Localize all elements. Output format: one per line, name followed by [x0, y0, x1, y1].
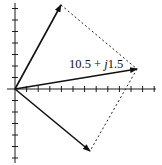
resultant-phasor — [15, 69, 137, 89]
phasor-diagram — [0, 0, 162, 165]
construction-line — [90, 69, 137, 151]
upper-phasor — [15, 5, 61, 89]
construction-lines — [61, 5, 137, 151]
lower-phasor — [15, 89, 90, 151]
label-plus: + — [91, 57, 104, 71]
label-real-part: 10.5 — [69, 57, 91, 71]
phasors — [15, 5, 137, 151]
resultant-phasor-label: 10.5 + j1.5 — [69, 57, 123, 72]
label-imag-part: 1.5 — [108, 57, 124, 71]
y-axis — [12, 3, 18, 163]
